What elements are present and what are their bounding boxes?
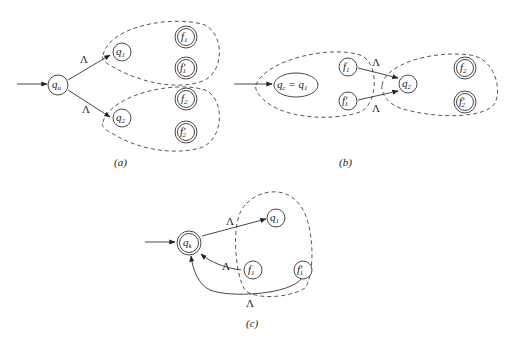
lambda-label: Λ xyxy=(246,297,254,309)
panel-c: Λ Λ Λ qk q1 f1 f′1 (c) xyxy=(145,192,312,330)
group-m1 xyxy=(236,192,312,297)
state-q1: q1 xyxy=(267,209,285,227)
state-f1prime: f′1 xyxy=(339,92,357,110)
state-f2prime-accepting: f′2 xyxy=(175,121,197,143)
edge-qu-q1 xyxy=(68,55,110,80)
lambda-label: Λ xyxy=(82,103,90,115)
state-f1-accepting: f1 xyxy=(175,26,197,48)
svg-text:qc = q1: qc = q1 xyxy=(277,78,308,92)
state-f1: f1 xyxy=(244,261,262,279)
state-qc-equals-q1: qc = q1 xyxy=(274,73,318,97)
svg-text:f′1: f′1 xyxy=(180,61,186,75)
state-q2: q2 xyxy=(399,75,417,93)
caption-c: (c) xyxy=(246,317,259,330)
state-qu: qu xyxy=(48,75,68,95)
lambda-label: Λ xyxy=(80,53,88,65)
lambda-label: Λ xyxy=(226,215,234,227)
svg-text:f′1: f′1 xyxy=(297,263,303,277)
automata-diagram: Λ Λ qu q1 q2 f1 f′1 f2 f′2 xyxy=(0,0,512,345)
panel-a: Λ Λ qu q1 q2 f1 f′1 f2 f′2 xyxy=(17,21,219,169)
svg-text:f′1: f′1 xyxy=(342,94,348,108)
state-qk-initial-accepting: qk xyxy=(177,231,201,255)
lambda-label: Λ xyxy=(222,260,230,272)
state-f2-accepting: f2 xyxy=(175,88,197,110)
caption-a: (a) xyxy=(114,156,127,169)
edge-f1-qk xyxy=(201,254,241,270)
lambda-label: Λ xyxy=(372,102,380,114)
edge-f1-q2 xyxy=(358,68,398,78)
state-q2: q2 xyxy=(113,109,131,127)
state-f2-accepting: f2 xyxy=(454,57,476,79)
caption-b: (b) xyxy=(339,156,352,169)
state-f1prime: f′1 xyxy=(294,261,312,279)
state-f2prime-accepting: f′2 xyxy=(454,91,476,113)
state-q1: q1 xyxy=(113,43,131,61)
lambda-label: Λ xyxy=(372,56,380,68)
state-f1prime-accepting: f′1 xyxy=(175,57,197,79)
edge-f1prime-q2 xyxy=(358,91,398,100)
state-f1: f1 xyxy=(339,58,357,76)
edge-qk-q1 xyxy=(202,219,266,236)
panel-b: Λ Λ qc = q1 f1 f′1 q2 f2 f′2 (b) xyxy=(234,52,498,169)
